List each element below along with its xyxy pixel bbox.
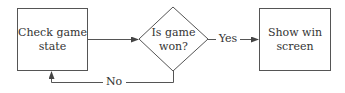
node-decision-line1: Is game (139, 26, 208, 40)
edge-yes-label: Yes (214, 32, 242, 46)
edge-no-right (126, 71, 174, 83)
node-win-line1: Show win (259, 26, 331, 40)
node-check-line2: state (17, 40, 88, 54)
node-decision-label: Is game won? (139, 26, 208, 54)
node-win-line2: screen (259, 40, 331, 54)
edge-no-label: No (102, 75, 126, 89)
node-check-label: Check game state (17, 26, 88, 54)
node-decision-line2: won? (139, 40, 208, 54)
node-win-label: Show win screen (259, 26, 331, 54)
edge-no-left (52, 72, 104, 83)
node-check-line1: Check game (17, 26, 88, 40)
